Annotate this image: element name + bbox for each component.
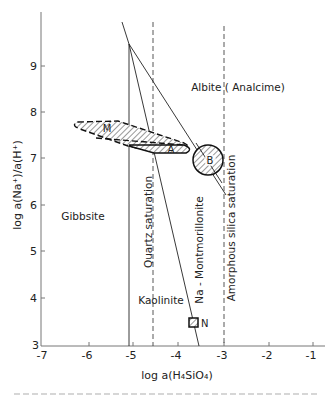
field-label-gibbsite: Gibbsite	[61, 210, 104, 222]
y-tick-label: 8	[30, 106, 37, 119]
y-tick-label: 4	[30, 292, 37, 305]
x-axis-title: log a(H₄SiO₄)	[141, 369, 212, 382]
label-n: N	[201, 318, 208, 329]
x-tick-label: -3	[217, 349, 228, 362]
x-tick-label: -1	[306, 349, 317, 362]
region-a	[129, 145, 190, 153]
y-tick-label: 7	[30, 152, 37, 165]
x-tick-label: -2	[262, 349, 273, 362]
phase-diagram: 9 8 7 6 5 4 3 -7 -6 -5 -4 -3 -2 -1 log a…	[0, 0, 333, 395]
y-tick-label: 9	[30, 60, 37, 73]
x-tick-labels: -7 -6 -5 -4 -3 -2 -1	[37, 349, 317, 362]
clipped-caption	[14, 389, 319, 395]
field-label-albite: Albite ( Analcime)	[191, 81, 285, 93]
x-tick-label: -5	[126, 349, 137, 362]
label-b: B	[207, 155, 214, 166]
x-ticks	[89, 342, 313, 346]
x-tick-label: -7	[37, 349, 48, 362]
field-label-kaolinite: Kaolinite	[138, 294, 184, 306]
region-n	[189, 318, 198, 327]
y-tick-labels: 9 8 7 6 5 4 3	[30, 60, 39, 352]
gibbsite-albite-boundary	[122, 22, 129, 44]
y-axis-title: log a(Na⁺)/a(H⁺)	[11, 140, 24, 229]
label-amorphous-silica-saturation: Amorphous silica saturation	[225, 155, 237, 302]
y-ticks	[41, 66, 45, 298]
x-tick-label: -4	[171, 349, 182, 362]
label-quartz-saturation: Quartz saturation	[142, 176, 154, 268]
y-tick-label: 5	[30, 245, 37, 258]
x-tick-label: -6	[82, 349, 93, 362]
label-m: M	[103, 123, 112, 134]
y-tick-label: 6	[30, 199, 37, 212]
field-label-na-montmorillonite: Na - Montmorillonite	[193, 196, 205, 303]
label-a: A	[168, 144, 175, 155]
